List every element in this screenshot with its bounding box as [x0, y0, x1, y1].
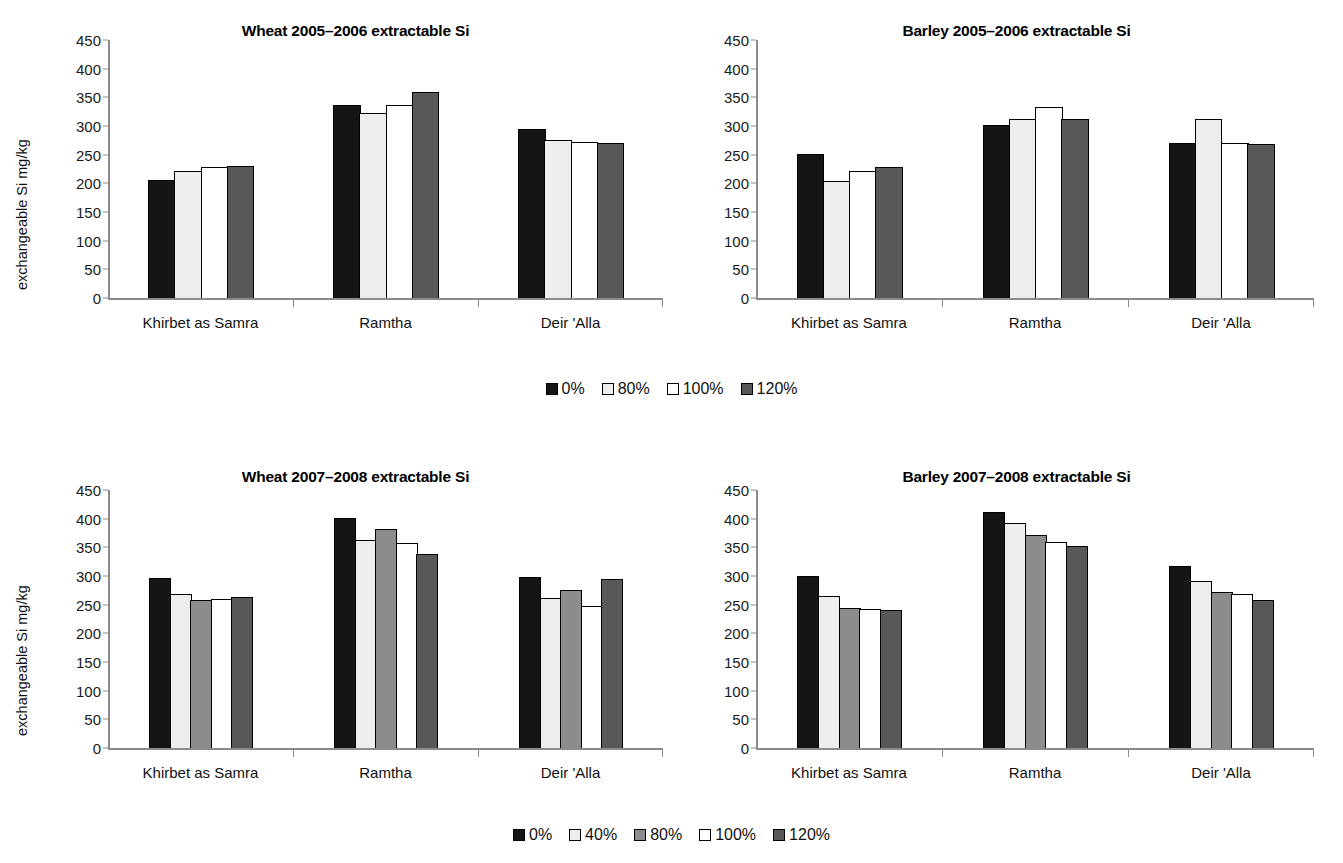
- legend-label: 80%: [618, 380, 650, 398]
- bar[interactable]: [333, 105, 361, 298]
- bar[interactable]: [227, 166, 255, 298]
- bar[interactable]: [823, 181, 851, 298]
- bar[interactable]: [396, 543, 418, 748]
- bar[interactable]: [1004, 523, 1026, 748]
- x-axis-end-tick: [1313, 298, 1314, 307]
- x-category-label: Ramtha: [359, 314, 412, 331]
- legend-swatch-icon: [513, 829, 525, 841]
- bar[interactable]: [1169, 566, 1191, 748]
- bar[interactable]: [983, 125, 1011, 298]
- legend-label: 0%: [529, 826, 552, 844]
- bar-group: Khirbet as Samra: [756, 490, 942, 748]
- legend-item[interactable]: 120%: [773, 826, 830, 844]
- bar[interactable]: [1247, 144, 1275, 298]
- x-category-label: Khirbet as Samra: [143, 314, 259, 331]
- bar[interactable]: [601, 579, 623, 748]
- bar[interactable]: [386, 105, 414, 298]
- bar[interactable]: [983, 512, 1005, 748]
- bar[interactable]: [797, 576, 819, 748]
- bar[interactable]: [1190, 581, 1212, 748]
- bar[interactable]: [818, 596, 840, 749]
- bar[interactable]: [416, 554, 438, 748]
- bar[interactable]: [190, 600, 212, 748]
- bar[interactable]: [540, 598, 562, 748]
- bar[interactable]: [597, 143, 625, 298]
- bar[interactable]: [849, 171, 877, 298]
- bar[interactable]: [880, 610, 902, 748]
- plot-area: 050100150200250300350400450 Khirbet as S…: [756, 490, 1314, 748]
- legend-item[interactable]: 100%: [667, 380, 724, 398]
- bar[interactable]: [231, 597, 253, 748]
- bar[interactable]: [1035, 107, 1063, 298]
- bar[interactable]: [581, 606, 603, 748]
- bar[interactable]: [201, 167, 229, 298]
- bar-groups: Khirbet as SamraRamthaDeir 'Alla: [756, 490, 1314, 748]
- bar[interactable]: [859, 609, 881, 748]
- bars: [1169, 490, 1272, 748]
- bar[interactable]: [1195, 119, 1223, 298]
- bar[interactable]: [1066, 546, 1088, 748]
- legend-swatch-icon: [602, 383, 614, 395]
- legend-bottom: 0%40%80%100%120%: [0, 826, 1343, 844]
- legend-label: 0%: [562, 380, 585, 398]
- x-category-label: Ramtha: [359, 764, 412, 781]
- legend-item[interactable]: 120%: [741, 380, 798, 398]
- legend-item[interactable]: 0%: [513, 826, 552, 844]
- bar[interactable]: [375, 529, 397, 748]
- bar[interactable]: [148, 180, 176, 298]
- plot-area: 050100150200250300350400450 Khirbet as S…: [108, 40, 663, 298]
- bar[interactable]: [149, 578, 171, 748]
- bar[interactable]: [1009, 119, 1037, 298]
- legend-label: 100%: [683, 380, 724, 398]
- bar[interactable]: [1025, 535, 1047, 748]
- bar[interactable]: [518, 129, 546, 298]
- bar[interactable]: [174, 171, 202, 298]
- chart-wheat-2007-2008: Wheat 2007–2008 extractable Si exchangea…: [0, 468, 671, 788]
- x-axis-end-tick: [1313, 748, 1314, 757]
- bar[interactable]: [1252, 600, 1274, 748]
- bar[interactable]: [571, 142, 599, 298]
- bar[interactable]: [1221, 143, 1249, 298]
- bar[interactable]: [1211, 592, 1233, 748]
- legend-swatch-icon: [667, 383, 679, 395]
- x-category-label: Khirbet as Samra: [791, 764, 907, 781]
- x-axis-separator: [478, 748, 479, 757]
- chart-title: Wheat 2007–2008 extractable Si: [40, 468, 671, 486]
- x-category-label: Khirbet as Samra: [143, 764, 259, 781]
- bar-group: Khirbet as Samra: [756, 40, 942, 298]
- bar[interactable]: [334, 518, 356, 748]
- bar[interactable]: [355, 540, 377, 748]
- legend-item[interactable]: 0%: [546, 380, 585, 398]
- bars: [148, 40, 252, 298]
- legend-item[interactable]: 100%: [699, 826, 756, 844]
- bar[interactable]: [875, 167, 903, 298]
- bar[interactable]: [1231, 594, 1253, 748]
- bar[interactable]: [839, 608, 861, 748]
- x-axis-separator: [942, 748, 943, 757]
- plot-area: 050100150200250300350400450 Khirbet as S…: [108, 490, 663, 748]
- bars: [1169, 40, 1273, 298]
- bar[interactable]: [170, 594, 192, 748]
- bar[interactable]: [1045, 542, 1067, 748]
- bar[interactable]: [359, 113, 387, 298]
- legend-item[interactable]: 80%: [634, 826, 682, 844]
- bar[interactable]: [519, 577, 541, 748]
- legend-item[interactable]: 40%: [569, 826, 617, 844]
- legend-swatch-icon: [634, 829, 646, 841]
- bar[interactable]: [1169, 143, 1197, 298]
- bar[interactable]: [544, 140, 572, 298]
- legend-item[interactable]: 80%: [602, 380, 650, 398]
- bar[interactable]: [211, 599, 233, 748]
- x-axis-separator: [293, 748, 294, 757]
- bar[interactable]: [412, 92, 440, 298]
- bar[interactable]: [1061, 119, 1089, 298]
- legend-swatch-icon: [569, 829, 581, 841]
- legend-swatch-icon: [546, 383, 558, 395]
- bar[interactable]: [560, 590, 582, 748]
- chart-title: Barley 2005–2006 extractable Si: [700, 22, 1333, 40]
- chart-barley-2007-2008: Barley 2007–2008 extractable Si 05010015…: [660, 468, 1343, 788]
- bar[interactable]: [797, 154, 825, 298]
- x-category-label: Ramtha: [1009, 314, 1062, 331]
- legend-label: 40%: [585, 826, 617, 844]
- chart-title: Barley 2007–2008 extractable Si: [700, 468, 1333, 486]
